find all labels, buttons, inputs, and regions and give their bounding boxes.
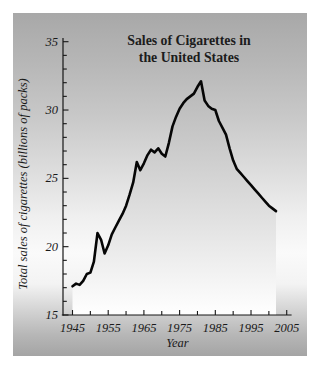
chart-title-line-2: the United States bbox=[139, 50, 240, 65]
x-tick-label-1985: 1985 bbox=[203, 321, 228, 335]
x-tick-label-1945: 1945 bbox=[60, 321, 85, 335]
x-tick-label-2005: 2005 bbox=[274, 321, 299, 335]
chart-title-line-1: Sales of Cigarettes in bbox=[127, 33, 251, 48]
y-tick-label-30: 30 bbox=[45, 103, 59, 117]
y-tick-label-35: 35 bbox=[45, 35, 59, 49]
x-tick-label-1965: 1965 bbox=[131, 321, 156, 335]
x-tick-label-1955: 1955 bbox=[96, 321, 121, 335]
y-tick-label-20: 20 bbox=[46, 240, 59, 254]
x-axis-title: Year bbox=[166, 336, 189, 350]
y-tick-label-25: 25 bbox=[46, 171, 59, 185]
cigarette-sales-chart: 19451955196519751985199520051520253035 S… bbox=[0, 0, 320, 369]
x-tick-label-1995: 1995 bbox=[239, 321, 264, 335]
y-axis-title: Total sales of cigarettes (billions of p… bbox=[16, 78, 30, 290]
figure: 19451955196519751985199520051520253035 S… bbox=[0, 0, 320, 369]
y-tick-label-15: 15 bbox=[46, 308, 59, 322]
x-tick-label-1975: 1975 bbox=[167, 321, 192, 335]
